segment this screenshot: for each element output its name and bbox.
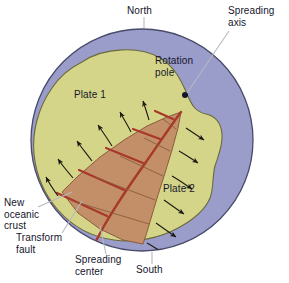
label-spreading-center: Spreading center — [75, 254, 122, 277]
label-south: South — [136, 264, 163, 276]
label-north: North — [127, 5, 152, 17]
label-new-oceanic-crust: New oceanic crust — [4, 197, 39, 232]
label-rotation-pole: Rotation pole — [155, 55, 193, 78]
label-transform-fault: Transform fault — [16, 232, 62, 255]
label-spreading-axis: Spreading axis — [228, 5, 275, 28]
label-plate-2: Plate 2 — [163, 183, 195, 195]
label-plate-1: Plate 1 — [74, 89, 106, 101]
spreading-axis-diagram: North Spreading axis Rotation pole Plate… — [0, 0, 289, 283]
